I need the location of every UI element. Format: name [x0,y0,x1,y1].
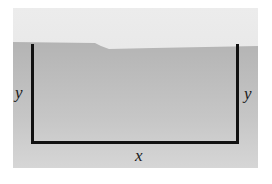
right-fence-side [236,44,239,144]
bottom-side-label: x [135,147,143,164]
right-side-label: y [244,85,252,102]
diagram-figure [13,8,258,168]
background-regions [13,8,258,168]
bottom-fence-side [31,141,239,144]
left-side-label: y [15,84,23,101]
left-fence-side [31,44,34,144]
